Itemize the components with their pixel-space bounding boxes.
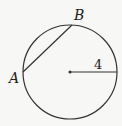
center-point xyxy=(69,71,72,74)
point-a-label: A xyxy=(7,70,19,86)
chord-ab xyxy=(23,25,72,72)
radius-label: 4 xyxy=(94,57,102,72)
point-b-label: B xyxy=(73,7,84,23)
circle-diagram: A B 4 xyxy=(0,0,122,126)
